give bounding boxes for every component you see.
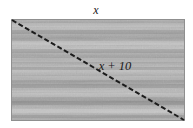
geometry-figure: x x + 10 — [0, 0, 193, 128]
top-side-label: x — [92, 3, 99, 17]
figure-container: x x + 10 — [0, 0, 193, 128]
diagonal-length-label: x + 10 — [98, 59, 132, 73]
